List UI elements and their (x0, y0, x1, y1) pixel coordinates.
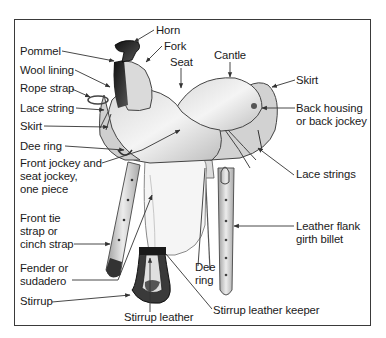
label-dee-ring-front: Dee ring (20, 140, 62, 153)
label-lace-strings: Lace strings (296, 168, 356, 181)
cinch-strap (106, 162, 140, 278)
label-dee-ring-rear: Dee ring (195, 261, 215, 287)
label-seat: Seat (170, 56, 193, 69)
label-fork: Fork (164, 40, 186, 53)
label-lace-string: Lace string (20, 102, 74, 115)
label-rope-strap: Rope strap (20, 82, 74, 95)
label-front-tie: Front tie strap or cinch strap (20, 212, 74, 251)
label-stirrup-leather: Stirrup leather (124, 311, 193, 324)
label-front-jockey: Front jockey and seat jockey, one piece (20, 157, 102, 196)
label-horn: Horn (156, 24, 180, 37)
label-fender: Fender or sudadero (20, 262, 68, 288)
label-back-housing: Back housing or back jockey (296, 102, 367, 128)
label-skirt-front: Skirt (20, 120, 42, 133)
fender (144, 148, 206, 255)
label-leather-flank: Leather flank girth billet (296, 220, 360, 246)
label-cantle: Cantle (214, 49, 246, 62)
flank-billet (218, 167, 234, 295)
label-skirt-rear: Skirt (296, 74, 318, 87)
stirrup (132, 247, 170, 303)
label-stirrup: Stirrup (20, 295, 53, 308)
label-stirrup-leather-keeper: Stirrup leather keeper (213, 304, 319, 317)
label-wool-lining: Wool lining (20, 64, 74, 77)
label-pommel: Pommel (20, 45, 61, 58)
